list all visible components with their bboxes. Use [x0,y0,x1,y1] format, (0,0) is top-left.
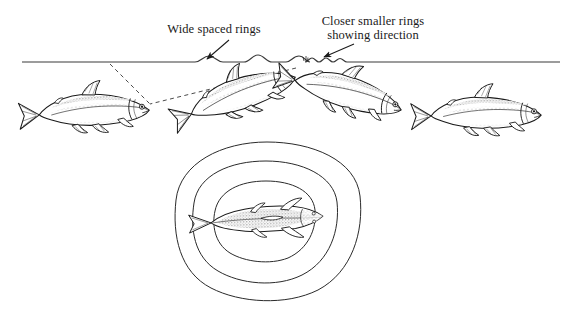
waterline-group [22,55,560,62]
label-arrows-group [207,40,354,59]
waterline-close-rings [305,58,347,62]
waterline-wide-rings [195,55,310,62]
fish-right-submerged [410,82,542,139]
illustration-canvas: Wide spaced rings Closer smaller rings s… [0,0,572,319]
fish-center-dorsal [188,197,324,243]
arrow-wide-rings [207,40,229,59]
arrow-close-rings [324,44,354,57]
fish-rising-left [162,47,302,142]
figure-svg [0,0,572,319]
fish-left-submerged [17,77,150,138]
